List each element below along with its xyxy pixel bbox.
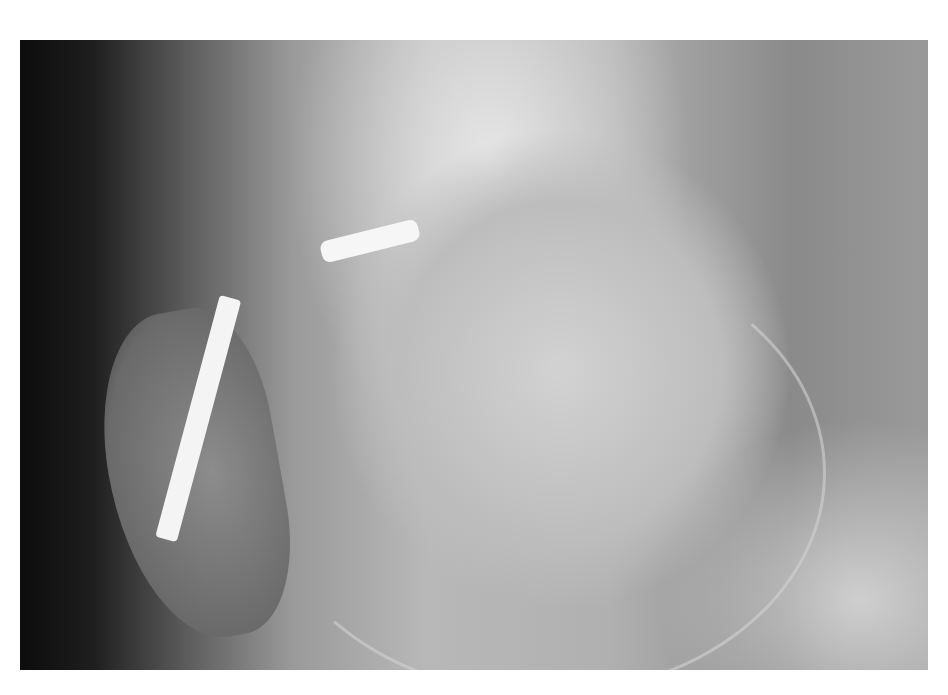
radiograph-frame [0, 0, 948, 695]
knee-xray-image [20, 40, 928, 670]
implant-pin-head [319, 218, 421, 264]
femoral-condyle-outline [260, 250, 826, 670]
